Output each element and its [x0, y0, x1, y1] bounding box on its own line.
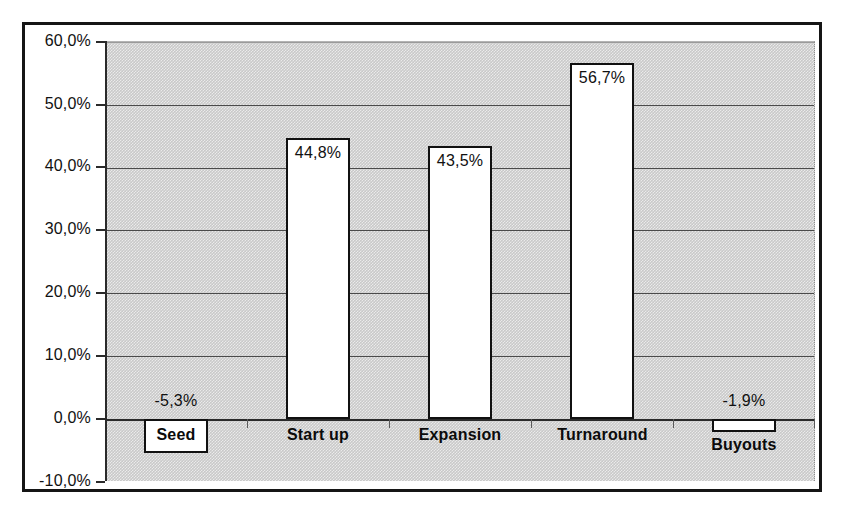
bar-value-expansion: 43,5% [420, 152, 500, 170]
y-axis-spine [105, 41, 107, 481]
y-axis-tick-20 [96, 292, 105, 294]
y-axis-tick-0 [96, 418, 105, 420]
y-axis-tick-30 [96, 229, 105, 231]
y-axis-label-40: 40,0% [21, 157, 91, 175]
x-axis-tick-4 [673, 419, 674, 428]
y-axis-label-60: 60,0% [21, 32, 91, 50]
y-axis-labels: 60,0% 50,0% 40,0% 30,0% 20,0% 10,0% 0,0%… [25, 25, 91, 489]
category-label-buyouts: Buyouts [694, 436, 794, 454]
y-axis-tick-60 [96, 41, 105, 43]
bar-value-turnaround: 56,7% [562, 69, 642, 87]
chart-frame: 60,0% 50,0% 40,0% 30,0% 20,0% 10,0% 0,0%… [22, 22, 822, 492]
y-axis-tick-40 [96, 166, 105, 168]
y-axis-label-30: 30,0% [21, 220, 91, 238]
x-axis-tick-1 [247, 419, 248, 428]
bar-buyouts[interactable] [712, 419, 776, 432]
bar-value-start-up: 44,8% [278, 144, 358, 162]
y-axis-tick-10 [96, 355, 105, 357]
plot-area: -5,3% Seed 44,8% Start up 43,5% Expansio… [105, 41, 815, 481]
category-label-seed: Seed [136, 426, 216, 444]
category-label-start-up: Start up [268, 426, 368, 444]
x-axis-tick-5 [814, 419, 815, 428]
gridline-zero [105, 419, 814, 421]
y-axis-tick-neg10 [96, 481, 105, 483]
x-axis-tick-2 [389, 419, 390, 428]
screenshot-canvas: 60,0% 50,0% 40,0% 30,0% 20,0% 10,0% 0,0%… [0, 0, 845, 512]
y-axis-label-neg10: -10,0% [21, 472, 91, 490]
bar-start-up[interactable] [286, 138, 350, 419]
bar-value-buyouts: -1,9% [704, 392, 784, 410]
y-axis-label-50: 50,0% [21, 95, 91, 113]
bar-expansion[interactable] [428, 146, 492, 419]
y-axis-label-0: 0,0% [21, 409, 91, 427]
y-axis-tick-50 [96, 104, 105, 106]
bar-turnaround[interactable] [570, 63, 634, 419]
bar-value-seed: -5,3% [136, 392, 216, 410]
x-axis-tick-3 [531, 419, 532, 428]
y-axis-label-10: 10,0% [21, 346, 91, 364]
category-label-expansion: Expansion [405, 426, 515, 444]
category-label-turnaround: Turnaround [545, 426, 660, 444]
y-axis-label-20: 20,0% [21, 283, 91, 301]
gridline-50 [105, 105, 814, 106]
gridline-60 [105, 42, 814, 43]
